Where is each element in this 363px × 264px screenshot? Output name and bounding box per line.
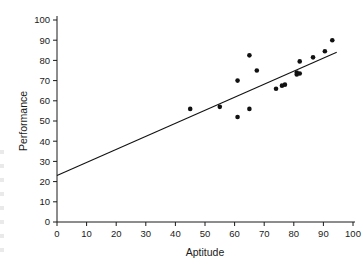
y-tick-label: 100: [34, 14, 50, 25]
data-point: [235, 115, 240, 120]
y-tick-label: 40: [39, 136, 50, 147]
scatter-plot-figure: 0102030405060708090100010203040506070809…: [0, 0, 363, 264]
data-point: [188, 107, 193, 112]
y-tick-label: 70: [39, 75, 50, 86]
y-tick-label: 30: [39, 156, 50, 167]
x-tick-label: 80: [289, 228, 300, 239]
x-tick-label: 30: [141, 228, 152, 239]
data-point: [218, 105, 223, 110]
y-axis-title: Performance: [17, 91, 29, 151]
x-tick-label: 70: [259, 228, 270, 239]
y-tick-label: 80: [39, 55, 50, 66]
x-tick-label: 50: [200, 228, 211, 239]
y-tick-label: 60: [39, 95, 50, 106]
x-tick-label: 10: [81, 228, 92, 239]
x-tick-label: 0: [54, 228, 59, 239]
y-tick-label: 50: [39, 115, 50, 126]
y-tick-label: 10: [39, 196, 50, 207]
data-point: [254, 68, 259, 73]
y-tick-label: 90: [39, 35, 50, 46]
data-point: [247, 53, 252, 58]
y-tick-label: 20: [39, 176, 50, 187]
x-tick-label: 100: [345, 228, 361, 239]
x-axis-title: Aptitude: [186, 246, 225, 258]
data-point: [283, 82, 288, 87]
data-point: [311, 55, 316, 60]
chart-canvas: 0102030405060708090100010203040506070809…: [0, 0, 363, 264]
regression-line: [57, 52, 337, 175]
data-point: [323, 49, 328, 54]
x-tick-label: 40: [170, 228, 181, 239]
x-tick-label: 90: [318, 228, 329, 239]
data-point: [297, 71, 302, 76]
y-tick-label: 0: [45, 216, 50, 227]
x-tick-label: 60: [229, 228, 240, 239]
data-point: [274, 86, 279, 91]
data-point: [235, 78, 240, 83]
data-point: [297, 59, 302, 64]
data-point: [247, 107, 252, 112]
x-tick-label: 20: [111, 228, 122, 239]
data-point: [330, 38, 335, 43]
